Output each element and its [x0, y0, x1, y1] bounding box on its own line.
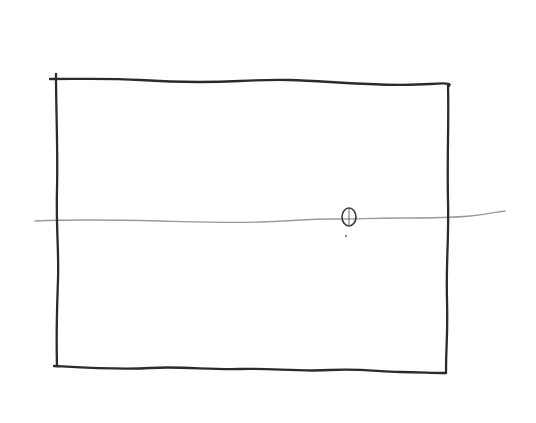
horizon-line: [35, 211, 505, 222]
sketch-canvas: [0, 0, 536, 423]
frame-right-edge: [446, 85, 448, 373]
frame-bottom-edge: [54, 366, 446, 373]
frame-left-edge: [56, 74, 58, 366]
frame-top-edge: [50, 79, 450, 86]
sketch-drawing: [0, 0, 536, 423]
marker-dot: [345, 235, 347, 237]
